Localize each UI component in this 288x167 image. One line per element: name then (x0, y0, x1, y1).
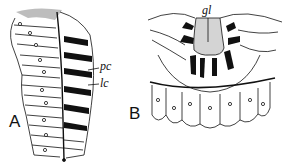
panel-a-label: A (9, 113, 20, 130)
gl-label: gl (202, 4, 211, 16)
pc-label: pc (100, 60, 111, 72)
lc-label: lc (100, 77, 109, 89)
panel-b-label: B (129, 105, 140, 122)
figure-drawing (0, 0, 288, 167)
panel-b-drawing (148, 13, 282, 128)
histology-figure: A pc lc B gl (0, 0, 288, 167)
panel-a-drawing (11, 8, 99, 161)
